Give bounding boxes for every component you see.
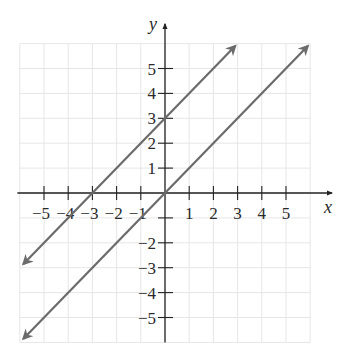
x-tick-label: 5 [282,204,291,223]
y-tick-label: 4 [148,84,157,103]
y-tick-label: 5 [148,60,157,79]
x-tick-label: 2 [209,204,218,223]
x-tick-label: −3 [80,204,98,223]
y-tick-label: −2 [138,234,156,253]
y-tick-label: 3 [148,109,157,128]
x-axis-label: x [323,197,332,217]
y-tick-label: 1 [148,159,157,178]
x-tick-label: 4 [258,204,267,223]
y-tick-label: −4 [138,284,157,303]
y-tick-label: −5 [138,309,156,328]
y-axis-label: y [147,14,157,34]
x-tick-label: 3 [233,204,242,223]
y-tick-label: −3 [138,259,156,278]
x-tick-label: −2 [105,204,123,223]
x-tick-label: 1 [185,204,194,223]
coordinate-plane: −5−4−3−2−112345−5−4−3−212345 x y [0,0,343,359]
x-tick-label: −5 [32,204,50,223]
y-tick-label: 2 [148,134,157,153]
